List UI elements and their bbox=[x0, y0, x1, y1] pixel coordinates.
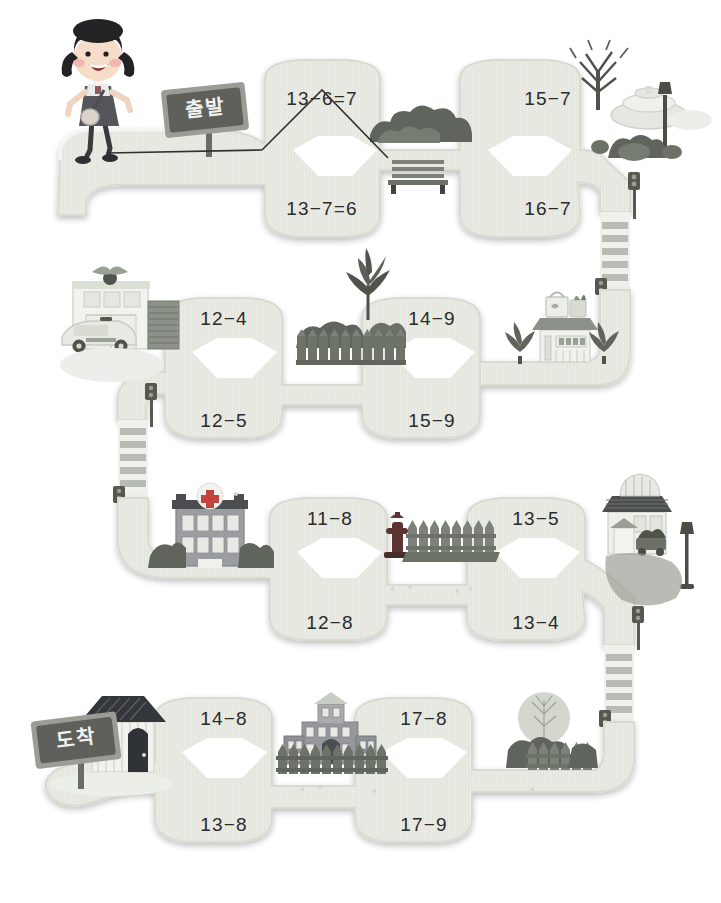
worksheet-canvas: 출발 bbox=[0, 0, 721, 903]
equation-cell[interactable]: 14−8 bbox=[200, 708, 248, 729]
equation-cell[interactable]: 12−8 bbox=[306, 612, 354, 633]
equation-cell[interactable]: 13−8 bbox=[200, 814, 248, 835]
equation-cell[interactable]: 17−9 bbox=[400, 814, 448, 835]
start-sign-label: 출발 bbox=[184, 95, 226, 121]
equation-cell[interactable]: 13−5 bbox=[512, 508, 560, 529]
equation-cell[interactable]: 12−4 bbox=[200, 308, 248, 329]
equation-cell[interactable]: 14−9 bbox=[408, 308, 456, 329]
equation-cell[interactable]: 12−5 bbox=[200, 410, 248, 431]
equation-cell[interactable]: 16−7 bbox=[524, 198, 572, 219]
equation-cell[interactable]: 13−7=6 bbox=[286, 198, 358, 219]
equation-cell[interactable]: 15−9 bbox=[408, 410, 456, 431]
equation-cell[interactable]: 15−7 bbox=[524, 88, 572, 109]
equation-cell[interactable]: 17−8 bbox=[400, 708, 448, 729]
equation-cell[interactable]: 13−4 bbox=[512, 612, 560, 633]
equation-cell[interactable]: 11−8 bbox=[307, 508, 353, 529]
equation-cell[interactable]: 13−6=7 bbox=[286, 88, 358, 109]
